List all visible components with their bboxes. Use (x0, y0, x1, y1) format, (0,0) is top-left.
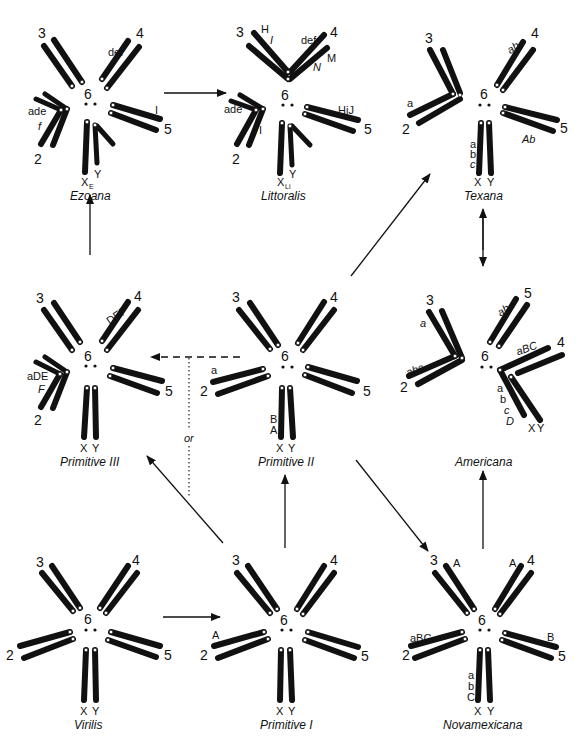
svg-text:HiJ: HiJ (338, 104, 354, 116)
phylogeny-diagram: or 6 3 4 5 2 def ade f I X (0, 0, 586, 744)
species-name-novamexicana: Novamexicana (443, 718, 523, 732)
svg-text:3: 3 (425, 30, 433, 46)
svg-text:2: 2 (34, 151, 42, 167)
svg-text:4: 4 (330, 552, 338, 568)
svg-text:4: 4 (132, 552, 140, 568)
svg-text:B: B (547, 631, 554, 643)
svg-text:2: 2 (34, 412, 42, 428)
svg-text:3: 3 (38, 25, 46, 41)
svg-text:H: H (261, 23, 269, 35)
svg-text:Y: Y (289, 168, 297, 180)
svg-text:X: X (528, 422, 536, 434)
svg-text:X: X (276, 705, 284, 717)
svg-text:4: 4 (330, 24, 338, 40)
species-name-primitive-ii: Primitive II (258, 455, 315, 469)
svg-text:2: 2 (232, 151, 240, 167)
species-name-ezoana: Ezoana (70, 189, 111, 203)
karyotype-americana: 6 3 5 4 2 a abc ab aBC a b c D X Y Ameri… (400, 285, 565, 469)
svg-text:X: X (277, 176, 285, 188)
svg-text:A: A (509, 557, 517, 569)
svg-text:D: D (506, 415, 514, 427)
svg-text:4: 4 (557, 334, 565, 350)
svg-text:6: 6 (478, 612, 486, 628)
svg-text:X: X (80, 705, 88, 717)
svg-text:a: a (420, 317, 426, 329)
svg-text:3: 3 (236, 24, 244, 40)
or-label: or (184, 432, 195, 444)
svg-text:Y: Y (92, 442, 100, 454)
svg-text:3: 3 (430, 552, 438, 568)
svg-text:2: 2 (400, 379, 408, 395)
svg-text:6: 6 (480, 86, 488, 102)
species-name-primitive-iii: Primitive III (60, 455, 120, 469)
svg-text:X: X (474, 176, 482, 188)
svg-text:X: X (80, 442, 88, 454)
svg-text:Y: Y (288, 442, 296, 454)
svg-text:4: 4 (136, 25, 144, 41)
svg-text:6: 6 (281, 348, 289, 364)
svg-text:2: 2 (402, 647, 410, 663)
svg-text:Y: Y (92, 705, 100, 717)
svg-text:Y: Y (487, 176, 495, 188)
svg-text:c: c (470, 158, 476, 170)
svg-text:5: 5 (361, 648, 369, 664)
karyotype-primitive-iii: 6 3 4 5 2 DEF aDE F X Y Primitive III (27, 288, 173, 469)
svg-text:2: 2 (200, 383, 208, 399)
svg-text:F: F (38, 383, 46, 395)
svg-text:I: I (270, 34, 273, 46)
svg-text:2: 2 (6, 647, 14, 663)
svg-text:A: A (212, 629, 220, 641)
svg-text:5: 5 (363, 383, 371, 399)
diagram-canvas: or 6 3 4 5 2 def ade f I X (0, 0, 586, 744)
karyotype-littoralis: 6 3 4 5 2 H I def N M ade I HiJ X Li Y L… (224, 23, 372, 203)
svg-text:def: def (108, 46, 124, 58)
svg-text:3: 3 (36, 554, 44, 570)
svg-text:6: 6 (84, 348, 92, 364)
arrow-primitive2-to-texana (351, 174, 430, 276)
svg-text:aDE: aDE (27, 370, 48, 382)
svg-text:3: 3 (426, 292, 434, 308)
svg-text:I: I (155, 104, 158, 116)
svg-text:aBC: aBC (410, 632, 431, 644)
svg-text:ade: ade (28, 105, 46, 117)
svg-text:6: 6 (481, 348, 489, 364)
svg-text:4: 4 (134, 288, 142, 304)
karyotype-primitive-i: 6 3 4 5 2 A X Y Primitive I (200, 552, 369, 732)
svg-text:4: 4 (330, 289, 338, 305)
svg-text:M: M (327, 52, 336, 64)
svg-text:abc: abc (404, 361, 425, 379)
svg-text:5: 5 (364, 121, 372, 137)
svg-text:def: def (301, 34, 317, 46)
svg-text:5: 5 (560, 120, 568, 136)
species-name-littoralis: Littoralis (261, 189, 306, 203)
svg-text:Y: Y (288, 705, 296, 717)
svg-text:f: f (38, 120, 42, 132)
svg-text:N: N (313, 61, 321, 73)
svg-text:X: X (474, 705, 482, 717)
svg-text:5: 5 (524, 285, 532, 301)
species-name-primitive-i: Primitive I (260, 718, 313, 732)
svg-text:3: 3 (232, 552, 240, 568)
karyotype-virilis: 6 3 4 5 2 X Y Virilis (6, 552, 172, 732)
species-name-virilis: Virilis (74, 718, 102, 732)
svg-text:5: 5 (164, 121, 172, 137)
arrow-primitive1-to-primitive3 (147, 456, 223, 543)
svg-text:2: 2 (200, 647, 208, 663)
svg-text:ade: ade (224, 103, 242, 115)
karyotype-primitive-ii: 6 3 4 5 2 a B A X Y Primitive II (200, 289, 371, 469)
svg-text:6: 6 (280, 612, 288, 628)
svg-text:A: A (453, 557, 461, 569)
svg-text:Ab: Ab (521, 133, 535, 145)
svg-text:Y: Y (487, 705, 495, 717)
svg-text:5: 5 (558, 648, 566, 664)
svg-text:C: C (467, 691, 475, 703)
svg-text:A: A (270, 424, 278, 436)
svg-text:3: 3 (232, 289, 240, 305)
svg-text:a: a (407, 97, 414, 109)
svg-text:5: 5 (164, 647, 172, 663)
svg-text:4: 4 (527, 552, 535, 568)
svg-text:X: X (276, 442, 284, 454)
karyotype-texana: 6 3 4 5 2 ab a Ab a b c X Y Texana (402, 25, 568, 203)
karyotype-ezoana: 6 3 4 5 2 def ade f I X E Y Ezoana (28, 25, 172, 203)
svg-text:Y: Y (537, 422, 545, 434)
